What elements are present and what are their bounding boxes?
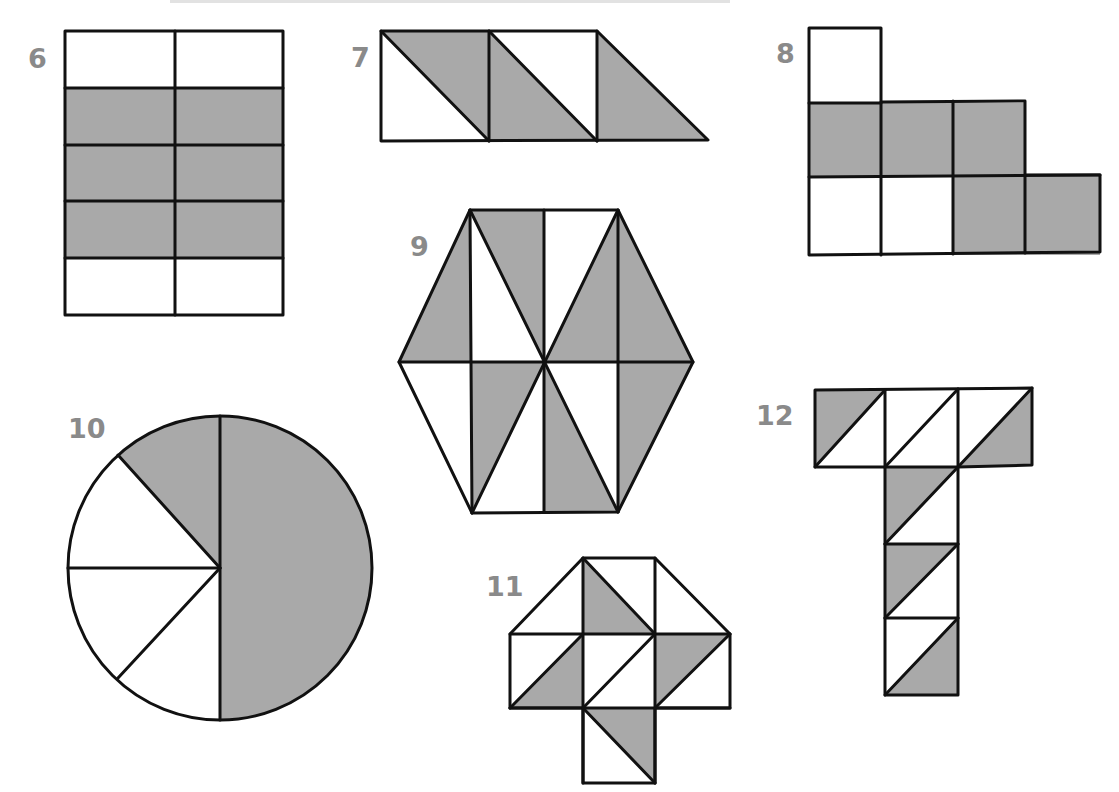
figure-9: 9 [399, 210, 693, 513]
figure-7-label: 7 [351, 42, 370, 73]
figure-8-shaded-squares [809, 103, 1025, 177]
figure-8-label: 8 [776, 38, 795, 69]
figure-9-label: 9 [410, 231, 429, 262]
figure-6: 6 [28, 31, 283, 315]
figure-10: 10 [68, 413, 372, 720]
figure-10-shaded-half [220, 416, 372, 720]
figure-6-label: 6 [28, 43, 47, 74]
figure-7: 7 [351, 31, 708, 141]
figure-8: 8 [776, 28, 1100, 255]
figure-12: 12 [756, 388, 1032, 695]
fraction-figures-sheet: 6 7 8 [0, 0, 1119, 792]
figure-11: 11 [486, 558, 730, 783]
figure-12-label: 12 [756, 400, 794, 431]
figure-11-label: 11 [486, 571, 524, 602]
figure-10-label: 10 [68, 413, 106, 444]
